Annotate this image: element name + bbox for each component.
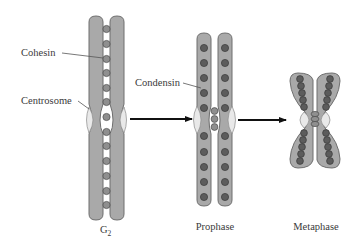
stage-label-g2: G2 xyxy=(100,224,112,238)
prophase-cohesin-beads xyxy=(211,108,218,131)
metaphase-chromosome xyxy=(290,73,340,168)
chromosome-condensation-diagram: Cohesin Centrosome G2 xyxy=(0,0,363,243)
stage-label-prophase: Prophase xyxy=(196,221,235,232)
stage-label-metaphase: Metaphase xyxy=(293,221,339,232)
cohesin-label: Cohesin xyxy=(21,47,56,58)
centrosome-label: Centrosome xyxy=(21,95,72,106)
prophase-chromosome xyxy=(194,33,236,206)
condensin-label: Condensin xyxy=(135,77,181,88)
g2-chromosome xyxy=(87,16,127,220)
centrosome-leader-line xyxy=(78,101,89,109)
metaphase-cohesin-beads xyxy=(311,111,319,126)
g2-cohesin-beads xyxy=(103,25,110,208)
